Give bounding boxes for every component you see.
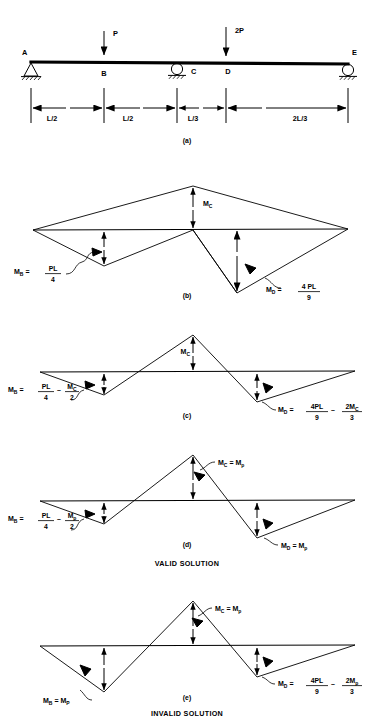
dimension-B-C: L/2 [106, 108, 175, 123]
fraction-numerator-1: 4PL [311, 403, 323, 410]
moment-line-c [40, 335, 355, 402]
peak-label-MC-c: MC [181, 348, 191, 357]
operator-minus: – [331, 680, 335, 687]
annotation-MB-b: MB = PL 4 [14, 265, 61, 283]
figure-root: A B C D E [0, 0, 375, 724]
annotation-MC-e: MC = Mp [215, 605, 241, 614]
leader-MB-b [66, 252, 94, 274]
fraction-denominator-2: 3 [350, 414, 354, 421]
moment-line-d [40, 455, 355, 538]
dimension-label-A-B: L/2 [47, 114, 57, 123]
load-label-2P: 2P [235, 26, 244, 35]
svg-text:MD =: MD = [266, 286, 282, 295]
fraction-numerator-2: 2MC [345, 403, 358, 412]
operator-minus: – [57, 386, 61, 393]
fraction-denominator-1: 4 [44, 523, 48, 530]
leader-MB-e [80, 690, 92, 700]
fraction-numerator: 4 PL [302, 283, 316, 290]
caption-d: (d) [183, 541, 192, 549]
annotation-MD-c: MD = 4PL 9 – 2MC 3 [278, 403, 362, 421]
leader-arrowhead-MB-b [92, 248, 102, 256]
status-label-valid: VALID SOLUTION [155, 559, 219, 568]
annotation-MC-d: MC = Mp [218, 459, 244, 468]
baseline-b [33, 229, 348, 230]
support-pin-A [21, 63, 41, 80]
dimension-A-B: L/2 [33, 108, 102, 123]
leader-MD-c [262, 402, 276, 410]
envelope-upper-b [33, 186, 348, 230]
dimension-label-C-D: L/3 [188, 114, 198, 123]
chord-CD-b [193, 230, 237, 293]
node-label-D: D [225, 67, 231, 76]
fraction-numerator-1: 4PL [311, 677, 323, 684]
bending-moment-figure: A B C D E [0, 0, 375, 724]
fraction-numerator-2: 2Mp [346, 677, 359, 686]
beam-diagram: A B C D E [21, 26, 357, 145]
moment-diagram-d: MC = Mp MB = PL 4 – Mp 2 MD = Mp (d) [8, 455, 355, 568]
leader-arrowhead-MD-e [263, 657, 273, 667]
leader-arrowhead-MD-b [245, 264, 256, 274]
caption-c: (c) [183, 412, 191, 420]
caption-e: (e) [183, 694, 191, 702]
annotation-MB-d: MB = PL 4 – Mp 2 [8, 512, 79, 530]
node-label-C: C [191, 67, 197, 76]
leader-MD-e [262, 677, 275, 684]
svg-text:MB =: MB = [8, 515, 24, 524]
svg-text:MD =: MD = [278, 680, 294, 689]
operator-minus: – [57, 515, 61, 522]
baseline-e [40, 645, 355, 646]
support-roller-E [339, 64, 357, 79]
support-roller-C [168, 63, 186, 78]
envelope-lower-b [33, 229, 348, 293]
operator-minus: – [331, 406, 335, 413]
status-label-invalid: INVALID SOLUTION [151, 709, 223, 718]
fraction-denominator-2: 2 [70, 523, 74, 530]
fraction-denominator-2: 2 [70, 394, 74, 401]
dimension-label-B-C: L/2 [123, 114, 133, 123]
baseline-c [40, 371, 355, 372]
fraction-denominator-2: 3 [350, 688, 354, 695]
annotation-MD-d: MD = Mp [281, 542, 307, 551]
leader-MC-d [200, 462, 215, 470]
svg-text:MD =: MD = [278, 406, 294, 415]
fraction-denominator: 4 [51, 276, 55, 283]
leader-arrowhead-MB-d [85, 510, 95, 518]
dimension-D-E: 2L/3 [228, 108, 346, 123]
leader-arrowhead-MC-d [194, 472, 205, 481]
moment-diagram-b: MC MB = PL 4 MD = 4 PL 9 (b) [14, 186, 348, 301]
node-label-B: B [101, 69, 106, 78]
annotation-MB-c: MB = PL 4 – MC 2 [8, 383, 79, 401]
caption-b: (b) [183, 292, 192, 300]
fraction-denominator: 9 [307, 294, 311, 301]
annotation-MD-e: MD = 4PL 9 – 2Mp 3 [278, 677, 362, 695]
fraction-numerator-1: PL [42, 512, 51, 519]
peak-label-MC-b: MC [203, 200, 213, 209]
caption-a: (a) [183, 137, 191, 145]
svg-text:MB =: MB = [14, 268, 30, 277]
leader-arrowhead-MB-c [85, 381, 95, 389]
fraction-numerator: PL [49, 265, 58, 272]
moment-line-e [40, 601, 355, 692]
leader-arrowhead-MD-c [263, 383, 273, 393]
node-label-E: E [352, 48, 357, 57]
annotation-MB-e: MB = MP [43, 697, 70, 706]
dimension-C-D: L/3 [179, 108, 224, 123]
leader-arrowhead-MB-e [80, 665, 91, 676]
svg-text:MB =: MB = [8, 386, 24, 395]
dimension-label-D-E: 2L/3 [293, 114, 307, 123]
fraction-denominator-1: 9 [315, 688, 319, 695]
leader-arrowhead-MC-e [192, 618, 203, 627]
moment-diagram-e: MC = Mp MB = MP MD = 4PL 9 – 2Mp 3 (e) [40, 601, 362, 718]
fraction-numerator-1: PL [42, 383, 51, 390]
baseline-d [40, 500, 355, 501]
beam-member [31, 62, 348, 64]
leader-arrowhead-MD-d [263, 519, 273, 529]
fraction-denominator-1: 9 [315, 414, 319, 421]
load-label-P: P [113, 29, 118, 38]
leader-MD-d [264, 538, 278, 545]
moment-diagram-c: MC MB = PL 4 – MC 2 MD = 4PL [8, 335, 362, 421]
node-label-A: A [22, 48, 28, 57]
fraction-denominator-1: 4 [44, 394, 48, 401]
